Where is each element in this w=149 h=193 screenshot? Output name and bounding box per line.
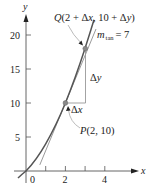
x-tick-label-2: 2 — [63, 174, 68, 185]
point-Q — [83, 46, 88, 51]
function-curve — [18, 20, 94, 178]
tangent-line-diagram: 0 2 4 5 10 15 20 x y Q(2 + Δx, 10 + Δy) … — [0, 0, 149, 193]
p-callout-arrowhead-icon — [66, 106, 71, 111]
delta-x-label: Δx — [71, 104, 83, 115]
p-label: P(2, 10) — [79, 125, 115, 137]
x-axis-label: x — [140, 165, 146, 176]
y-tick-label-5: 5 — [15, 132, 20, 143]
y-tick-label-15: 15 — [10, 64, 20, 75]
y-axis-arrow-icon — [24, 14, 29, 22]
q-callout-arrow — [68, 25, 81, 43]
x-axis-arrow-icon — [131, 169, 139, 174]
q-label: Q(2 + Δx, 10 + Δy) — [54, 12, 135, 24]
x-tick-label-4: 4 — [102, 174, 107, 185]
delta-y-label: Δy — [90, 72, 102, 83]
y-axis-label: y — [22, 1, 28, 12]
m-tan-label: mtan= 7 — [97, 29, 129, 41]
y-tick-label-20: 20 — [10, 30, 20, 41]
point-P — [63, 101, 68, 106]
y-tick-label-10: 10 — [10, 98, 20, 109]
x-tick-label-0: 0 — [30, 174, 35, 185]
